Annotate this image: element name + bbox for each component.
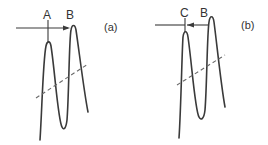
panel-caption-b: (b) (241, 19, 254, 31)
peak-label-A: A (43, 8, 51, 22)
peak-label-B-b: B (200, 6, 208, 20)
diagram: A B (a) C B (b) (0, 0, 268, 145)
waveform-b (179, 17, 225, 138)
panel-b: C B (b) (155, 6, 254, 138)
peak-label-B-a: B (66, 8, 74, 22)
panel-caption-a: (a) (104, 21, 117, 33)
arrowhead-left-icon (187, 23, 194, 28)
arrowhead-right-icon (63, 26, 70, 31)
panel-a: A B (a) (16, 8, 117, 140)
waveform-a (40, 26, 88, 141)
peak-label-C: C (180, 6, 189, 20)
